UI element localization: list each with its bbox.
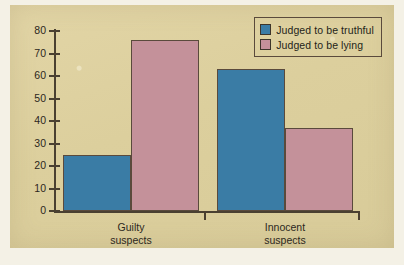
- y-axis-tick-label: 80: [34, 25, 46, 36]
- y-axis-labels: 01020304050607080: [10, 5, 46, 248]
- y-axis-tick: [49, 75, 60, 77]
- y-axis-tick: [49, 30, 60, 32]
- x-axis-category-label-line: Innocent: [217, 221, 353, 234]
- bar-lying: [131, 40, 199, 211]
- y-axis-tick-label: 60: [34, 70, 46, 81]
- legend-item-truthful: Judged to be truthful: [260, 22, 374, 37]
- legend-item-lying: Judged to be lying: [260, 37, 374, 52]
- chart-panel: 01020304050607080 GuiltysuspectsInnocent…: [10, 5, 394, 248]
- y-axis-tick: [49, 53, 60, 55]
- legend-swatch-lying-icon: [260, 39, 271, 50]
- y-axis-tick-label: 20: [34, 160, 46, 171]
- y-axis-tick-label: 40: [34, 115, 46, 126]
- y-axis-tick-label: 0: [40, 205, 46, 216]
- bar-truthful: [63, 155, 131, 211]
- y-axis-tick-label: 70: [34, 48, 46, 59]
- figure-root: 01020304050607080 GuiltysuspectsInnocent…: [0, 0, 404, 265]
- y-axis-tick: [49, 120, 60, 122]
- x-axis-category-label-line: suspects: [217, 234, 353, 247]
- legend-swatch-truthful-icon: [260, 24, 271, 35]
- x-axis-category-label-line: suspects: [63, 234, 199, 247]
- y-axis-tick: [49, 210, 60, 212]
- y-axis-tick-label: 30: [34, 138, 46, 149]
- y-axis-tick: [49, 143, 60, 145]
- x-axis-category-label: Innocentsuspects: [217, 221, 353, 246]
- x-axis-tick-end: [358, 211, 360, 220]
- x-axis-tick-separator: [204, 211, 206, 220]
- legend-label-lying: Judged to be lying: [276, 39, 363, 51]
- y-axis-tick: [49, 165, 60, 167]
- x-axis-category-label-line: Guilty: [63, 221, 199, 234]
- y-axis-tick-label: 50: [34, 93, 46, 104]
- legend-label-truthful: Judged to be truthful: [276, 24, 374, 36]
- bar-lying: [285, 128, 353, 211]
- y-axis-tick: [49, 98, 60, 100]
- bar-truthful: [217, 69, 285, 211]
- y-axis-tick: [49, 188, 60, 190]
- y-axis-tick-label: 10: [34, 183, 46, 194]
- x-axis-line: [54, 211, 360, 213]
- x-axis-category-label: Guiltysuspects: [63, 221, 199, 246]
- chart-legend: Judged to be truthful Judged to be lying: [254, 17, 382, 57]
